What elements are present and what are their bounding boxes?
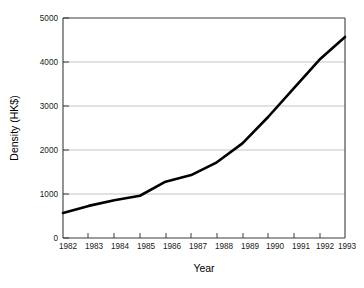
xtick-label-1989: 1989 bbox=[241, 242, 260, 251]
ytick-label-4000: 4000 bbox=[40, 58, 59, 67]
ytick-label-5000: 5000 bbox=[40, 14, 59, 23]
x-axis-tick-labels: 1982 1983 1984 1985 1986 1987 1988 1989 … bbox=[59, 242, 357, 251]
xtick-label-1991: 1991 bbox=[292, 242, 311, 251]
y-axis-title: Density (HK$) bbox=[8, 95, 20, 160]
chart-figure: 0 1000 2000 3000 4000 5000 1982 1983 198… bbox=[0, 0, 364, 288]
xtick-label-1984: 1984 bbox=[111, 242, 130, 251]
xtick-label-1993: 1993 bbox=[338, 242, 357, 251]
ytick-label-0: 0 bbox=[53, 234, 58, 243]
ytick-label-3000: 3000 bbox=[40, 102, 59, 111]
xtick-label-1988: 1988 bbox=[215, 242, 234, 251]
xtick-label-1986: 1986 bbox=[163, 242, 182, 251]
xtick-label-1982: 1982 bbox=[59, 242, 78, 251]
x-axis-title: Year bbox=[193, 262, 215, 274]
plot-background bbox=[63, 18, 345, 238]
ytick-label-1000: 1000 bbox=[40, 190, 59, 199]
xtick-label-1992: 1992 bbox=[316, 242, 335, 251]
xtick-label-1985: 1985 bbox=[137, 242, 156, 251]
xtick-label-1987: 1987 bbox=[189, 242, 208, 251]
y-axis-tick-labels: 0 1000 2000 3000 4000 5000 bbox=[40, 14, 59, 243]
ytick-label-2000: 2000 bbox=[40, 146, 59, 155]
line-chart: 0 1000 2000 3000 4000 5000 1982 1983 198… bbox=[0, 0, 364, 288]
xtick-label-1990: 1990 bbox=[266, 242, 285, 251]
xtick-label-1983: 1983 bbox=[85, 242, 104, 251]
